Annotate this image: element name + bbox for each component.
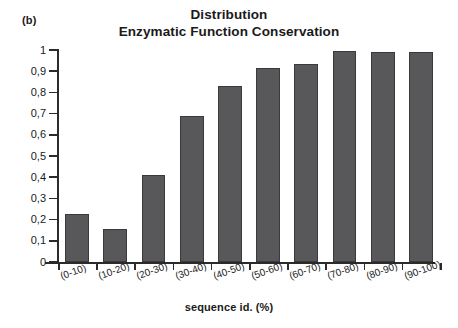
x-tick-label: (10-20) [97,261,131,281]
x-tick [58,263,60,270]
bar [256,68,280,262]
x-tick [173,263,175,270]
x-tick-label: (20-30) [135,261,169,281]
y-tick [49,176,57,178]
x-tick-label: (40-50) [212,261,246,281]
bar [142,175,166,262]
x-tick [402,263,404,270]
y-tick [49,261,57,263]
y-tick [49,92,57,94]
x-tick [134,263,136,270]
x-tick [364,263,366,270]
x-tick [211,263,213,270]
y-tick [49,155,57,157]
bar [180,116,204,262]
x-tick-label: (50-60) [250,261,284,281]
x-tick-label: (30-40) [174,261,208,281]
y-tick [49,70,57,72]
y-tick-label: 0,3 [14,193,46,204]
y-tick [49,134,57,136]
y-tick-label: 0,5 [14,151,46,162]
x-tick [249,263,251,270]
y-tick-label: 0,7 [14,108,46,119]
title-line-secondary: Enzymatic Function Conservation [0,23,458,40]
y-tick-label: 0,9 [14,66,46,77]
x-tick-label: (70-80) [326,261,360,281]
bar [409,52,433,262]
x-tick-label: (0-10) [59,263,87,282]
bar [103,229,127,262]
y-tick-label: 0,4 [14,172,46,183]
y-tick [49,49,57,51]
y-tick [49,219,57,221]
x-tick [96,263,98,270]
y-tick-label: 0,6 [14,129,46,140]
bar [294,64,318,262]
y-tick-label: 0,8 [14,87,46,98]
bar [333,51,357,262]
x-tick-label: (80-90) [365,261,399,281]
x-tick-label: (60-70) [288,261,322,281]
chart-title: Distribution Enzymatic Function Conserva… [0,6,458,40]
x-tick [287,263,289,270]
x-axis-title: sequence id. (%) [0,301,458,313]
y-tick [49,198,57,200]
title-line-primary: Distribution [0,6,458,23]
y-tick [49,240,57,242]
figure-panel: (b) Distribution Enzymatic Function Cons… [0,0,458,328]
y-tick-label: 0 [14,257,46,268]
x-tick [325,263,327,270]
bar [371,52,395,262]
y-tick-label: 0,2 [14,214,46,225]
plot-area [58,50,440,262]
bar [218,86,242,262]
y-tick-label: 0,1 [14,235,46,246]
y-tick [49,113,57,115]
y-tick-label: 1 [14,45,46,56]
bar [65,214,89,262]
